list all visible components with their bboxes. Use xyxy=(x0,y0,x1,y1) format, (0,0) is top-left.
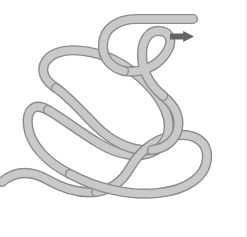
rope-path xyxy=(2,19,207,194)
rope-segment-upper-bight-to-right-sweep xyxy=(124,31,170,96)
knot-illustration xyxy=(0,0,247,237)
direction-arrow-shaft xyxy=(170,34,185,40)
knot-figure xyxy=(0,0,247,237)
direction-arrow-head xyxy=(183,31,194,42)
right-edge-rule xyxy=(246,0,247,237)
